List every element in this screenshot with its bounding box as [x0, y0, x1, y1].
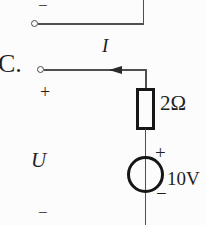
port-terminal-node	[37, 66, 44, 73]
resistor-symbol	[136, 88, 155, 130]
port-voltage-label: U	[31, 150, 46, 171]
top-vertical-wire	[143, 0, 145, 24]
port-minus-label: −	[38, 204, 48, 221]
circuit-diagram: − C. I + U − 2Ω + − 10V	[0, 0, 206, 225]
wire-to-resistor	[145, 70, 147, 89]
mid-horizontal-wire	[44, 69, 147, 71]
port-plus-label: +	[40, 83, 50, 101]
current-label: I	[102, 36, 108, 55]
top-branch-polarity-label: −	[38, 0, 48, 14]
source-minus-label: −	[156, 184, 167, 203]
current-arrow-icon	[109, 66, 122, 74]
resistor-value-label: 2Ω	[160, 93, 186, 114]
top-terminal-node	[31, 20, 38, 27]
option-label: C.	[0, 51, 22, 77]
source-value-label: 10V	[167, 169, 200, 188]
top-horizontal-wire	[38, 23, 144, 25]
source-plus-label: +	[155, 143, 166, 162]
